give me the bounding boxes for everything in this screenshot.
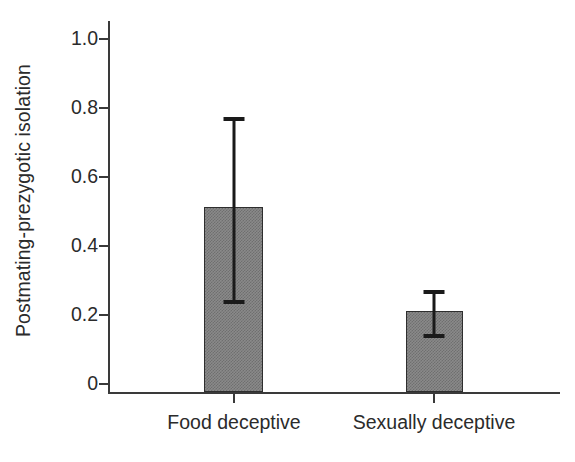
y-tick-mark-0.6 [99,176,108,178]
error-bar-lower-cap-sexually-deceptive [424,334,445,338]
y-tick-label-1.0: 1.0 [28,27,98,50]
x-tick-mark-food-deceptive [233,392,235,403]
y-tick-mark-0 [99,383,108,385]
x-tick-mark-sexually-deceptive [433,392,435,403]
x-axis-line [108,392,560,394]
x-tick-label-food-deceptive: Food deceptive [167,411,300,434]
y-axis-line [108,21,110,394]
error-bar-line-food-deceptive [233,119,236,302]
y-tick-mark-1.0 [99,38,108,40]
y-tick-label-0.4: 0.4 [28,234,98,257]
error-bar-line-sexually-deceptive [433,292,436,338]
y-tick-label-0.6: 0.6 [28,165,98,188]
error-bar-upper-cap-food-deceptive [224,117,245,121]
bar-chart-figure: Postmating-prezygotic isolation 1.0 0.8 … [0,0,575,462]
y-tick-mark-0.4 [99,245,108,247]
y-tick-mark-0.8 [99,107,108,109]
x-tick-label-sexually-deceptive: Sexually deceptive [353,411,516,434]
error-bar-lower-cap-food-deceptive [224,300,245,304]
plot-area: Food deceptive Sexually deceptive [108,21,560,394]
y-tick-label-0.2: 0.2 [28,303,98,326]
y-axis-label-container: Postmating-prezygotic isolation [0,0,46,400]
y-tick-mark-0.2 [99,314,108,316]
y-tick-label-0: 0 [28,372,98,395]
y-tick-label-0.8: 0.8 [28,96,98,119]
error-bar-upper-cap-sexually-deceptive [424,290,445,294]
